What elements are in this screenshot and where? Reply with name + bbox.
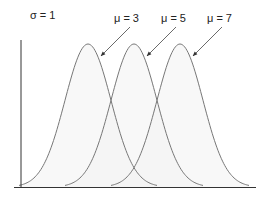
label-mu-5: μ = 5 (161, 12, 186, 24)
curve-fills (19, 44, 249, 187)
sigma-annotation: σ = 1 (30, 9, 55, 21)
normal-distributions-chart: σ = 1 μ = 3 μ = 5 μ = 7 (0, 0, 269, 201)
label-mu-7: μ = 7 (207, 12, 232, 24)
label-mu-3: μ = 3 (114, 12, 139, 24)
arrow-mu-7 (193, 27, 222, 56)
arrow-mu-5 (147, 27, 176, 56)
arrow-mu-3 (101, 27, 130, 56)
